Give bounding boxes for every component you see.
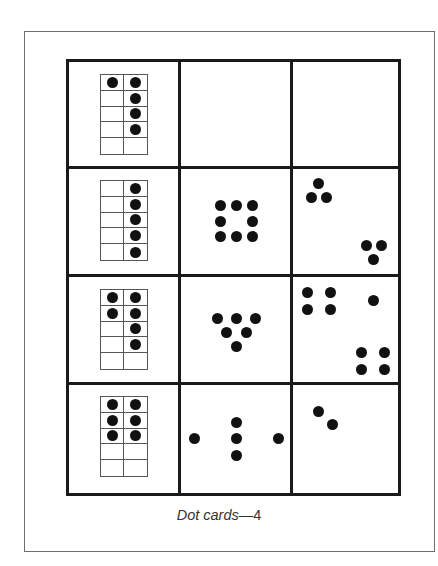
dot-icon — [231, 341, 242, 352]
ten-frame-cell-filled — [101, 290, 124, 306]
ten-frame-cell-empty — [101, 107, 124, 123]
ten-frame-cell-filled — [124, 197, 147, 213]
ten-frame-cell-filled — [124, 322, 147, 338]
grid-column-divider-2 — [290, 59, 293, 496]
dot-icon — [231, 313, 242, 324]
dot-icon — [273, 433, 284, 444]
dot-icon — [327, 419, 338, 430]
caption: Dot cards—4 — [0, 507, 438, 523]
ten-frame-cell-empty — [101, 228, 124, 244]
ten-frame-r4c1 — [100, 396, 148, 477]
dot-icon — [302, 304, 313, 315]
ten-frame-cell-filled — [124, 181, 147, 197]
ten-frame-cell-filled — [124, 122, 147, 138]
ten-frame-cell-empty — [101, 122, 124, 138]
dot-icon — [231, 231, 242, 242]
ten-frame-cell-filled — [124, 397, 147, 413]
dot-icon — [368, 295, 379, 306]
ten-frame-r2c1 — [100, 180, 148, 261]
ten-frame-cell-empty — [101, 322, 124, 338]
grid-row-divider-1 — [66, 166, 401, 169]
dot-icon — [250, 313, 261, 324]
ten-frame-cell-filled — [101, 75, 124, 91]
ten-frame-cell-empty — [101, 444, 124, 460]
dot-icon — [247, 216, 258, 227]
dot-icon — [231, 200, 242, 211]
dot-icon — [231, 450, 242, 461]
dot-icon — [356, 347, 367, 358]
ten-frame-cell-filled — [124, 228, 147, 244]
dot-icon — [356, 364, 367, 375]
ten-frame-cell-filled — [124, 107, 147, 123]
ten-frame-cell-filled — [124, 244, 147, 260]
ten-frame-cell-empty — [124, 353, 147, 369]
dot-icon — [215, 216, 226, 227]
dot-icon — [379, 364, 390, 375]
ten-frame-cell-filled — [101, 306, 124, 322]
dot-icon — [379, 347, 390, 358]
dot-icon — [247, 200, 258, 211]
ten-frame-cell-empty — [124, 460, 147, 476]
ten-frame-cell-empty — [124, 138, 147, 154]
grid-row-divider-2 — [66, 274, 401, 277]
caption-number: 4 — [253, 507, 261, 523]
ten-frame-cell-filled — [101, 413, 124, 429]
caption-text: Dot cards — [177, 507, 239, 523]
ten-frame-r3c1 — [100, 289, 148, 370]
ten-frame-cell-filled — [124, 91, 147, 107]
ten-frame-cell-filled — [124, 306, 147, 322]
ten-frame-cell-filled — [101, 429, 124, 445]
dot-icon — [313, 406, 324, 417]
ten-frame-cell-filled — [124, 337, 147, 353]
ten-frame-cell-empty — [101, 138, 124, 154]
ten-frame-cell-filled — [124, 213, 147, 229]
ten-frame-cell-filled — [124, 75, 147, 91]
dot-icon — [361, 240, 372, 251]
ten-frame-cell-empty — [101, 353, 124, 369]
dot-icon — [325, 304, 336, 315]
dot-icon — [215, 200, 226, 211]
ten-frame-cell-empty — [101, 181, 124, 197]
dot-icon — [247, 231, 258, 242]
dot-icon — [189, 433, 200, 444]
grid-column-divider-1 — [178, 59, 181, 496]
ten-frame-cell-empty — [101, 213, 124, 229]
ten-frame-cell-filled — [101, 397, 124, 413]
ten-frame-cell-filled — [124, 290, 147, 306]
ten-frame-cell-empty — [101, 460, 124, 476]
ten-frame-cell-empty — [101, 91, 124, 107]
ten-frame-cell-empty — [101, 337, 124, 353]
dot-icon — [306, 192, 317, 203]
dot-icon — [325, 287, 336, 298]
dot-icon — [241, 327, 252, 338]
dot-icon — [231, 433, 242, 444]
ten-frame-cell-filled — [124, 413, 147, 429]
dot-icon — [368, 254, 379, 265]
ten-frame-cell-empty — [124, 444, 147, 460]
ten-frame-cell-empty — [101, 197, 124, 213]
dot-icon — [212, 313, 223, 324]
ten-frame-r1c1 — [100, 74, 148, 155]
dot-icon — [302, 287, 313, 298]
dot-icon — [215, 231, 226, 242]
ten-frame-cell-empty — [101, 244, 124, 260]
caption-dash: — — [239, 507, 254, 523]
grid-row-divider-3 — [66, 382, 401, 385]
dot-icon — [376, 240, 387, 251]
ten-frame-cell-filled — [124, 429, 147, 445]
dot-icon — [321, 192, 332, 203]
dot-icon — [221, 327, 232, 338]
dot-icon — [231, 417, 242, 428]
dot-icon — [313, 178, 324, 189]
